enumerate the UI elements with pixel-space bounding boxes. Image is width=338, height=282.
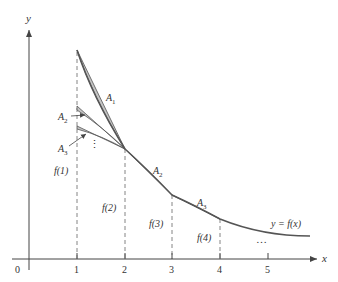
x-tick-label-4: 4 (217, 264, 222, 275)
x-tick-label-3: 3 (169, 264, 174, 275)
x-axis-label: x (321, 252, 327, 264)
region-a2-shifted (77, 106, 125, 149)
label-a3-shifted: A3 (57, 143, 68, 157)
label-a2-shifted: A2 (57, 111, 68, 125)
x-ticks (77, 253, 268, 259)
x-tick-label-2: 2 (122, 264, 127, 275)
f3-label: f(3) (149, 218, 164, 230)
f1-label: f(1) (54, 165, 69, 177)
curve-label: y = f(x) (270, 218, 302, 230)
region-a1 (77, 50, 125, 149)
x-tick-label-5: 5 (265, 264, 270, 275)
f4-label: f(4) (197, 232, 212, 244)
label-a1: A1 (105, 92, 116, 106)
pointer-a2-shifted (71, 115, 85, 116)
y-axis-label: y (25, 12, 31, 24)
integral-test-diagram: y x 0 1 2 3 4 5 f(1) f(2) f(3) f(4) y = … (0, 0, 338, 282)
x-tick-label-1: 1 (74, 264, 79, 275)
f2-label: f(2) (102, 202, 117, 214)
pointer-a3-shifted (69, 134, 86, 146)
vertical-dots: ⋮ (89, 138, 100, 150)
origin-label: 0 (15, 264, 20, 275)
horizontal-dots: … (256, 233, 267, 245)
